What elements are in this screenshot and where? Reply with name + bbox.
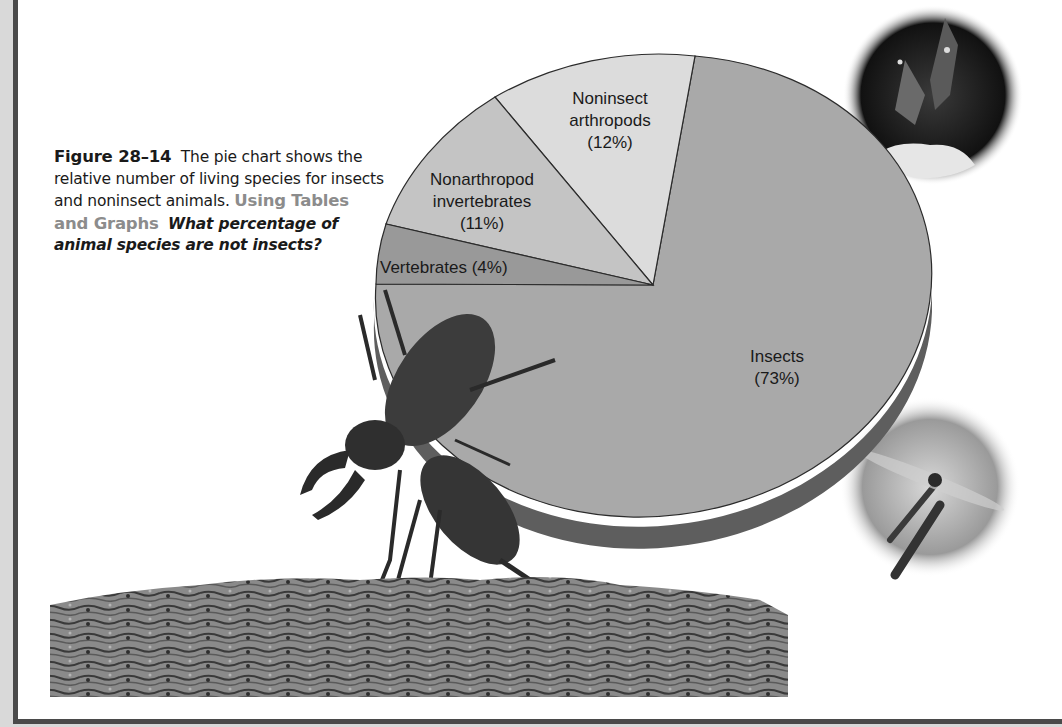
label-vertebrates: Vertebrates (4%) <box>380 258 508 277</box>
figure-label: Figure 28–14 <box>54 147 171 166</box>
figure-artwork: Noninsectarthropods(12%) Nonarthropodinv… <box>0 0 1062 727</box>
bark-log <box>50 577 788 697</box>
figure-caption: Figure 28–14 The pie chart shows the rel… <box>54 146 384 257</box>
